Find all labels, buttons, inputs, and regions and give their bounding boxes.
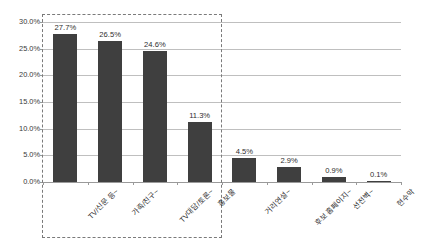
x-tick-mark: [222, 182, 223, 185]
x-category-label: 홍보물: [216, 187, 237, 208]
plot-area: 27.7%26.5%24.6%11.3%4.5%2.9%0.9%0.1%: [43, 22, 401, 182]
y-tick-label: 15.0%: [2, 98, 40, 106]
bar-value-label: 26.5%: [99, 30, 121, 39]
x-tick-mark: [133, 182, 134, 185]
x-tick-mark: [401, 182, 402, 185]
x-tick-mark: [88, 182, 89, 185]
bar[interactable]: [53, 34, 77, 182]
x-tick-mark: [267, 182, 268, 185]
bar-value-label: 24.6%: [144, 40, 166, 49]
bar-value-label: 0.9%: [325, 166, 342, 175]
y-axis: 0.0%5.0%10.0%15.0%20.0%25.0%30.0%: [0, 22, 40, 182]
x-category-label: 선전벽~: [351, 187, 375, 211]
bar-value-label: 0.1%: [370, 170, 387, 179]
bar-value-label: 11.3%: [189, 111, 210, 120]
bar[interactable]: [277, 167, 301, 182]
bar-slot: 27.7%: [43, 22, 88, 182]
x-category-label: 후보 홈페이지~: [313, 187, 354, 228]
bar[interactable]: [232, 158, 256, 182]
bar-slot: 4.5%: [222, 22, 267, 182]
bar[interactable]: [143, 51, 167, 182]
bar-value-label: 27.7%: [55, 23, 77, 32]
x-category-label: TV/신문 등~: [87, 187, 121, 221]
bar-slot: 26.5%: [88, 22, 133, 182]
bar-slot: 11.3%: [177, 22, 222, 182]
y-tick-label: 25.0%: [2, 45, 40, 53]
x-tick-mark: [177, 182, 178, 185]
y-tick-label: 10.0%: [2, 125, 40, 133]
bar-value-label: 2.9%: [280, 156, 297, 165]
bar[interactable]: [188, 122, 212, 182]
x-category-label: 가족/친구~: [130, 187, 161, 218]
x-tick-mark: [312, 182, 313, 185]
y-tick-label: 0.0%: [2, 178, 40, 186]
bar-slot: 0.1%: [356, 22, 401, 182]
x-category-label: 거리연설~: [264, 187, 293, 216]
bar[interactable]: [322, 177, 346, 182]
y-tick-label: 30.0%: [2, 18, 40, 26]
x-category-label: 현수막: [395, 187, 416, 208]
x-tick-mark: [43, 182, 44, 185]
y-tick-label: 5.0%: [2, 151, 40, 159]
bar-value-label: 4.5%: [236, 147, 253, 156]
bar-chart: 0.0%5.0%10.0%15.0%20.0%25.0%30.0% 27.7%2…: [0, 0, 421, 248]
y-tick-label: 20.0%: [2, 71, 40, 79]
bar[interactable]: [367, 181, 391, 182]
bar-slot: 0.9%: [312, 22, 357, 182]
x-category-label: TV대담/토론~: [178, 187, 215, 224]
x-tick-mark: [356, 182, 357, 185]
bar-slot: 2.9%: [267, 22, 312, 182]
bar[interactable]: [98, 41, 122, 182]
bar-slot: 24.6%: [133, 22, 178, 182]
